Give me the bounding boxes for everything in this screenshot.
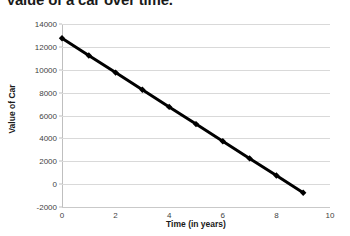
y-tick-label: 2000	[39, 157, 57, 166]
y-axis-title: Value of Car	[7, 69, 17, 149]
chart-title: Value of a car over time.	[6, 0, 173, 9]
plot-area: -200002000400060008000100001200014000 02…	[62, 24, 330, 207]
y-tick-label: 6000	[39, 111, 57, 120]
y-tick-label: 12000	[35, 42, 57, 51]
x-axis-title: Time (in years)	[62, 219, 330, 229]
line-series	[62, 24, 330, 207]
y-tick-label: 14000	[35, 20, 57, 29]
y-tick-label: 8000	[39, 88, 57, 97]
y-tick-label: 10000	[35, 65, 57, 74]
gridline	[62, 207, 330, 208]
y-tick-label: 4000	[39, 134, 57, 143]
y-tick-label: -2000	[37, 203, 57, 212]
series-line	[62, 38, 303, 192]
y-tick-label: 0	[53, 180, 57, 189]
